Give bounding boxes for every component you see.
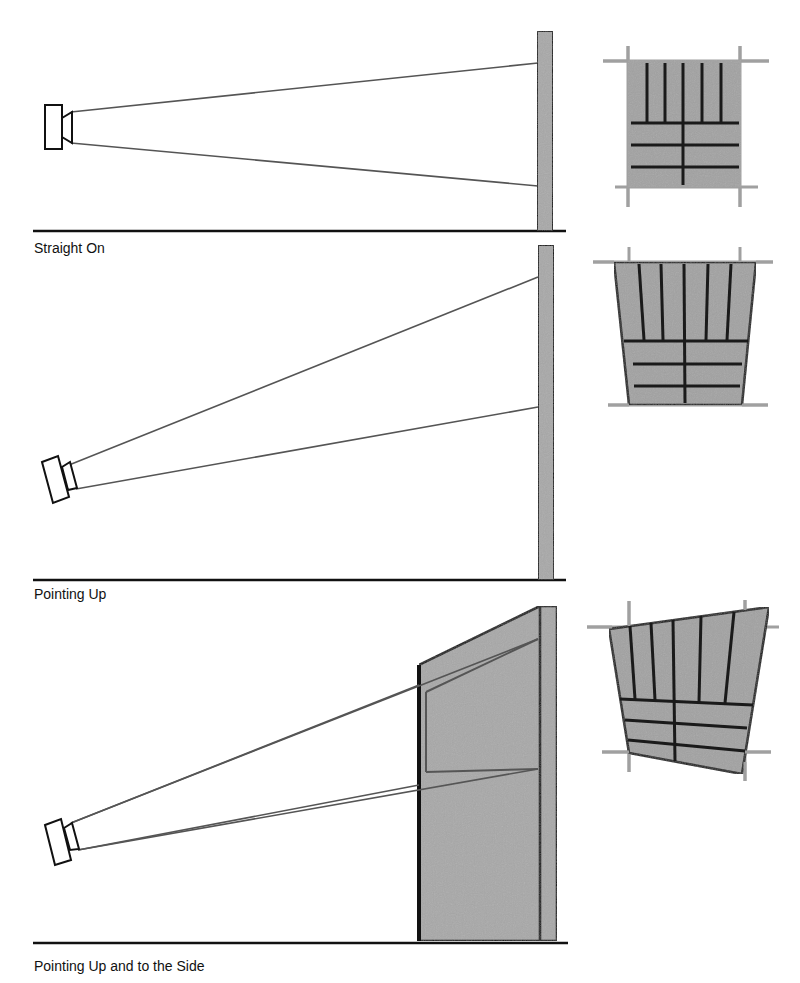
projection-beams [69,277,538,489]
projection-screen [419,606,540,941]
screen-edge [540,606,557,941]
panel-pointing-up-side [33,600,779,943]
panel-straight-on [33,31,769,231]
projection-screen [537,31,553,231]
projected-image-panel [587,600,779,781]
panel-pointing-up [33,245,773,580]
projection-beams [71,63,538,186]
projector-icon [45,105,72,149]
caption-straight-on: Straight On [34,240,105,256]
projected-image-panel [603,46,769,207]
keystone-diagram [0,0,800,983]
caption-pointing-up-side: Pointing Up and to the Side [34,958,204,974]
projected-image-panel [593,247,773,405]
projector-icon [45,819,79,865]
projection-screen [538,245,554,580]
caption-pointing-up: Pointing Up [34,586,106,602]
